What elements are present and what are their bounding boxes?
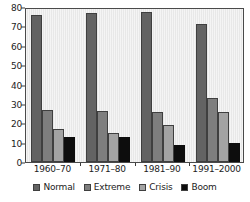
- plot-area: [25, 8, 244, 163]
- bar-boom-3: [229, 143, 240, 162]
- legend-item-crisis[interactable]: Crisis: [139, 183, 172, 192]
- bar-extreme-2: [152, 112, 163, 162]
- x-tick-label: 1960–70: [34, 165, 71, 175]
- legend-label: Extreme: [94, 183, 131, 192]
- bar-normal-0: [31, 15, 42, 162]
- bars-layer: [26, 9, 243, 162]
- bar-boom-0: [64, 137, 75, 162]
- bar-group: [81, 9, 136, 162]
- bar-normal-1: [86, 13, 97, 162]
- legend-label: Normal: [43, 183, 74, 192]
- x-tick-label: 1971–80: [88, 165, 125, 175]
- bar-boom-1: [119, 137, 130, 162]
- y-axis: 01020304050607080: [0, 8, 22, 163]
- legend-item-normal[interactable]: Normal: [33, 183, 74, 192]
- legend-swatch-icon: [139, 184, 146, 191]
- bar-group: [190, 9, 244, 162]
- bar-extreme-0: [42, 110, 53, 162]
- bar-crisis-0: [53, 129, 64, 162]
- legend-item-boom[interactable]: Boom: [181, 183, 216, 192]
- bar-extreme-1: [97, 111, 108, 162]
- legend-item-extreme[interactable]: Extreme: [84, 183, 131, 192]
- legend-swatch-icon: [84, 184, 91, 191]
- bar-group: [26, 9, 81, 162]
- bar-normal-2: [141, 12, 152, 162]
- x-tick-mark: [135, 163, 136, 166]
- legend-swatch-icon: [181, 184, 188, 191]
- bar-crisis-3: [218, 112, 229, 162]
- x-tick-mark: [80, 163, 81, 166]
- chart-legend: NormalExtremeCrisisBoom: [0, 183, 250, 192]
- bar-boom-2: [174, 145, 185, 162]
- bar-normal-3: [196, 24, 207, 162]
- legend-label: Crisis: [149, 183, 172, 192]
- x-axis: 1960–701971–801981–901991–2000: [25, 165, 244, 179]
- bar-crisis-1: [108, 133, 119, 162]
- bar-crisis-2: [163, 125, 174, 162]
- bar-chart: 01020304050607080 1960–701971–801981–901…: [0, 0, 250, 202]
- x-tick-mark: [189, 163, 190, 166]
- legend-swatch-icon: [33, 184, 40, 191]
- x-tick-label: 1981–90: [143, 165, 180, 175]
- bar-extreme-3: [207, 98, 218, 162]
- x-tick-label: 1991–2000: [192, 165, 241, 175]
- legend-label: Boom: [191, 183, 216, 192]
- bar-group: [136, 9, 191, 162]
